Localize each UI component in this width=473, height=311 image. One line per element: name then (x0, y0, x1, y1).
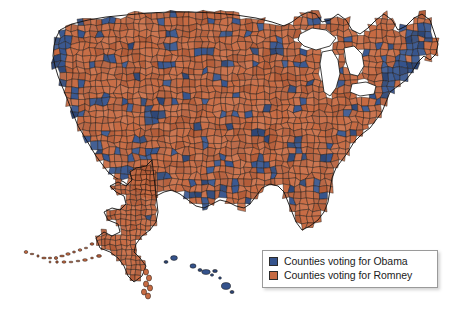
county-polygon (215, 117, 220, 125)
county-polygon (121, 166, 129, 175)
county-polygon (250, 94, 257, 100)
county-polygon (189, 79, 195, 87)
county-polygon (320, 154, 326, 162)
county-polygon (258, 79, 265, 86)
county-polygon (246, 135, 253, 144)
county-polygon (130, 275, 135, 281)
aleutian-island (49, 261, 51, 263)
map-legend: Counties voting for Obama Counties votin… (262, 250, 438, 288)
county-polygon (200, 174, 208, 180)
county-polygon (145, 42, 152, 48)
aleutian-island (37, 255, 39, 258)
county-polygon (158, 62, 164, 69)
county-polygon (164, 10, 171, 18)
county-polygon (117, 255, 122, 261)
county-polygon (214, 160, 221, 166)
county-polygon (226, 116, 233, 124)
county-polygon (159, 30, 166, 38)
legend-label-romney: Counties voting for Romney (284, 269, 412, 282)
county-polygon (151, 154, 158, 160)
alaska-panhandle-island (146, 275, 151, 281)
county-polygon (425, 31, 433, 38)
county-polygon (233, 55, 238, 63)
hawaii-island (202, 270, 210, 275)
county-polygon (102, 239, 106, 246)
county-polygon (189, 49, 195, 57)
county-polygon (135, 205, 142, 211)
great-lake-water (350, 82, 376, 96)
county-polygon (190, 197, 197, 203)
county-polygon (240, 86, 245, 93)
county-polygon (176, 167, 185, 173)
county-polygon (287, 49, 296, 57)
alaska-panhandle-island (147, 285, 152, 291)
county-polygon (257, 168, 265, 174)
hawaii-island (219, 277, 222, 279)
county-polygon (200, 166, 207, 175)
county-polygon (184, 167, 191, 174)
county-polygon (78, 87, 83, 94)
aleutian-island (84, 247, 88, 249)
county-polygon (164, 98, 173, 106)
county-polygon (318, 199, 327, 204)
county-polygon (178, 49, 183, 56)
county-polygon (171, 62, 176, 68)
county-polygon (221, 60, 228, 67)
county-polygon (251, 100, 257, 106)
county-polygon (125, 259, 131, 265)
county-polygon (388, 67, 393, 74)
county-polygon (114, 104, 123, 111)
hawaii-island (221, 283, 230, 290)
county-polygon (90, 80, 96, 87)
county-polygon (115, 162, 123, 168)
hawaii-island (213, 269, 218, 272)
county-polygon (233, 167, 240, 174)
aleutian-island (78, 249, 82, 252)
county-polygon (219, 166, 226, 172)
aleutian-island (48, 257, 52, 259)
county-polygon (135, 269, 141, 275)
county-polygon (202, 92, 210, 99)
aleutian-island (56, 261, 59, 264)
alaska-panhandle-island (143, 269, 148, 275)
county-polygon (306, 191, 314, 199)
aleutian-island (24, 251, 28, 254)
county-polygon (177, 162, 184, 168)
county-polygon (78, 73, 85, 80)
county-polygon (350, 130, 357, 136)
county-polygon (233, 93, 240, 98)
county-polygon (350, 136, 356, 143)
county-polygon (363, 112, 370, 119)
hawaii-layer (164, 256, 234, 294)
county-polygon (176, 123, 185, 129)
county-polygon (65, 55, 73, 63)
county-polygon (145, 48, 152, 57)
county-polygon (244, 79, 251, 85)
county-polygon (182, 104, 189, 111)
county-polygon (237, 55, 245, 62)
aleutian-island (90, 243, 94, 246)
aleutian-island (73, 251, 76, 253)
romney-color-swatch-icon (269, 271, 278, 280)
county-polygon (64, 87, 72, 93)
county-polygon (126, 249, 132, 255)
county-polygon (58, 66, 67, 73)
county-polygon (95, 150, 103, 154)
county-polygon (71, 87, 78, 94)
aleutian-island (62, 261, 66, 263)
county-polygon (71, 93, 79, 99)
county-polygon (126, 210, 131, 215)
county-polygon (121, 219, 126, 226)
county-polygon (357, 35, 364, 44)
county-polygon (221, 98, 226, 104)
hawaii-island (210, 274, 213, 276)
county-polygon (256, 75, 264, 79)
county-polygon (319, 192, 327, 199)
county-polygon (281, 91, 288, 100)
county-polygon (159, 69, 165, 75)
county-polygon (284, 49, 288, 57)
county-polygon (356, 130, 363, 137)
alaska-panhandle-island (145, 293, 150, 299)
county-polygon (122, 110, 127, 116)
hawaii-island (198, 269, 202, 272)
